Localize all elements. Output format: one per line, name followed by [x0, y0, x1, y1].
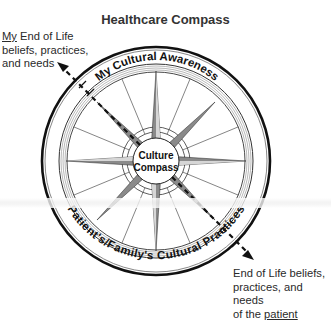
center-label-line2: Compass [133, 162, 178, 173]
center-label-line1: Culture [139, 150, 174, 161]
arrowhead-down-right-icon [242, 250, 254, 260]
arrowhead-up-left-icon [57, 62, 69, 72]
scan-artifact-band [0, 198, 331, 208]
